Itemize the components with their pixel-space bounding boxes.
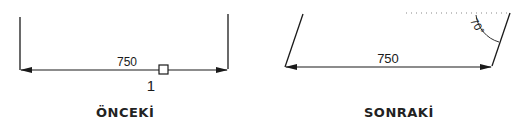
after-left-extension: [285, 14, 303, 67]
marker-number: 1: [147, 77, 155, 94]
after-right-extension: [492, 13, 510, 66]
after-dimension-text: 750: [377, 51, 399, 66]
grip-square[interactable]: [159, 65, 168, 74]
before-figure: 750 1: [20, 14, 228, 94]
before-dimension-text: 750: [117, 55, 137, 69]
after-caption: SONRAKİ: [364, 105, 434, 120]
diagram-canvas: 750 1 750 70°: [0, 0, 527, 124]
after-figure: 750 70°: [285, 13, 510, 67]
before-caption: ÖNCEKİ: [96, 105, 154, 120]
